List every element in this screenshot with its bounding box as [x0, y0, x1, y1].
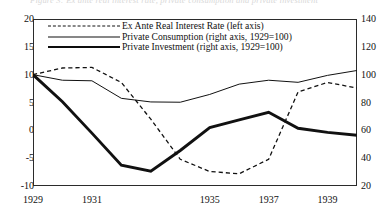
right-axis-tick: 100: [361, 70, 376, 80]
right-axis-tick: 60: [361, 125, 371, 135]
legend-item-label: Ex Ante Real Interest Rate (left axis): [122, 21, 264, 32]
right-axis-tick: 20: [361, 181, 371, 191]
legend-swatch-thin-icon: [48, 32, 120, 42]
right-axis-tick: 40: [361, 153, 371, 163]
x-axis-tick: 1935: [190, 195, 230, 205]
chart-legend: Ex Ante Real Interest Rate (left axis)Pr…: [48, 21, 278, 53]
series-line-thin: [33, 70, 357, 102]
x-axis-tick: 1937: [249, 195, 289, 205]
x-axis-tick: 1931: [72, 195, 112, 205]
right-axis-tick: 140: [361, 14, 376, 24]
x-axis-tick: 1939: [308, 195, 348, 205]
right-axis-tick: 120: [361, 42, 376, 52]
legend-item-label: Private Investment (right axis, 1929=100…: [122, 42, 283, 53]
x-axis-tick: 1929: [13, 195, 53, 205]
legend-swatch-thick-icon: [48, 42, 120, 52]
figure-container: Figure 3: Ex ante real interest rate, pr…: [0, 0, 390, 219]
legend-item: Private Investment (right axis, 1929=100…: [48, 42, 278, 53]
right-axis-tick: 80: [361, 98, 371, 108]
left-axis-tick: -10: [21, 181, 34, 191]
figure-caption-clipped: Figure 3: Ex ante real interest rate, pr…: [30, 0, 370, 5]
legend-item: Ex Ante Real Interest Rate (left axis): [48, 21, 278, 32]
legend-swatch-dashed-icon: [48, 21, 120, 31]
